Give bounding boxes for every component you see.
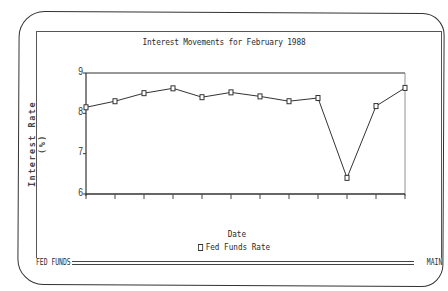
data-point-marker	[229, 90, 233, 95]
legend: Fed Funds Rate	[198, 242, 270, 252]
square-marker-icon	[198, 244, 203, 251]
data-point-marker	[374, 104, 378, 109]
data-point-marker	[113, 99, 117, 104]
status-bar: FED FUNDS MAIN	[36, 258, 442, 268]
data-point-marker	[200, 95, 204, 100]
series-fed-funds-rate	[84, 85, 407, 180]
data-point-marker	[171, 86, 175, 91]
data-point-marker	[345, 175, 349, 180]
status-divider	[72, 261, 414, 265]
data-point-marker	[287, 99, 291, 104]
x-axis-label: Date	[228, 229, 246, 239]
data-point-marker	[258, 94, 262, 99]
plot-axes	[83, 73, 405, 199]
status-right-label: MAIN	[426, 258, 442, 267]
data-point-marker	[142, 91, 146, 96]
data-point-marker	[84, 105, 88, 110]
status-left-label: FED FUNDS	[36, 258, 71, 267]
legend-label: Fed Funds Rate	[206, 242, 270, 252]
data-point-marker	[403, 85, 407, 90]
data-point-marker	[316, 96, 320, 101]
